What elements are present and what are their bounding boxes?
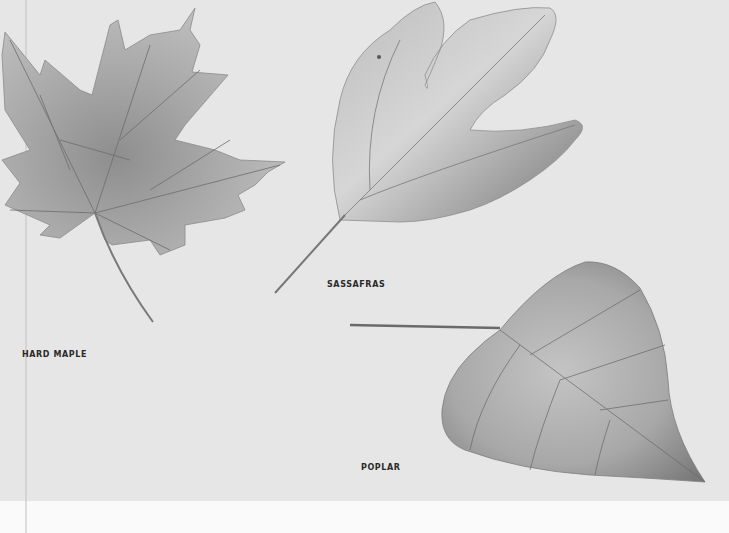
poplar-leaf: [350, 262, 705, 482]
hard-maple-leaf: [2, 8, 285, 322]
leaf-illustrations: [0, 0, 729, 533]
sassafras-leaf: [275, 2, 583, 293]
hard-maple-label: HARD MAPLE: [22, 350, 87, 359]
sassafras-label: SASSAFRAS: [327, 280, 385, 289]
poplar-label: POPLAR: [361, 463, 401, 472]
